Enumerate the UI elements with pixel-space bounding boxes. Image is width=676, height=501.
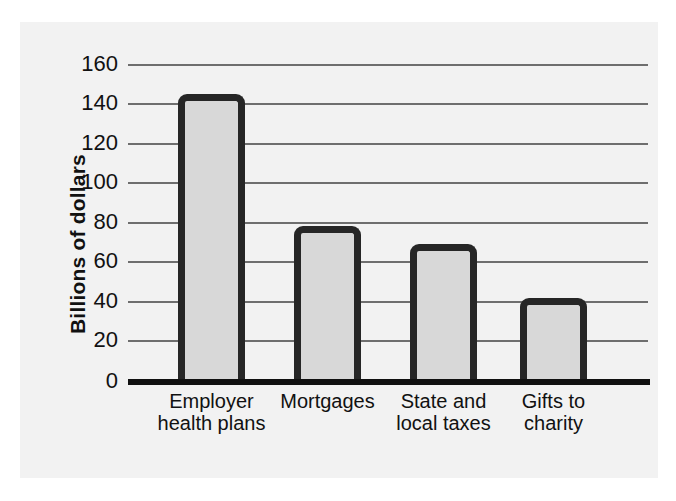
y-tick-label-60: 60 bbox=[0, 250, 118, 272]
bar-state-and-local-taxes[interactable] bbox=[410, 244, 477, 381]
y-tick-label-140: 140 bbox=[0, 92, 118, 114]
bar-mortgages[interactable] bbox=[294, 226, 361, 381]
y-tick-label-40: 40 bbox=[0, 290, 118, 312]
y-tick-label-120: 120 bbox=[0, 132, 118, 154]
y-tick-label-0: 0 bbox=[0, 370, 118, 392]
y-tick-label-160: 160 bbox=[0, 53, 118, 75]
gridline-160 bbox=[128, 64, 648, 66]
x-tick-label-line-1: Gifts to bbox=[489, 390, 618, 412]
y-tick-label-20: 20 bbox=[0, 329, 118, 351]
y-axis-title: Billions of dollars bbox=[66, 119, 90, 369]
x-axis-line bbox=[128, 379, 650, 385]
bar-gifts-to-charity[interactable] bbox=[520, 298, 587, 381]
x-tick-label-gifts-to-charity: Gifts to charity bbox=[489, 390, 618, 435]
chart-page: 160 140 120 100 80 60 40 20 0 bbox=[0, 0, 676, 501]
y-tick-label-80: 80 bbox=[0, 211, 118, 233]
bar-employer-health-plans[interactable] bbox=[178, 94, 245, 381]
y-tick-label-100: 100 bbox=[0, 171, 118, 193]
x-tick-label-line-2: charity bbox=[489, 412, 618, 434]
x-tick-label-line-2: health plans bbox=[142, 412, 281, 434]
